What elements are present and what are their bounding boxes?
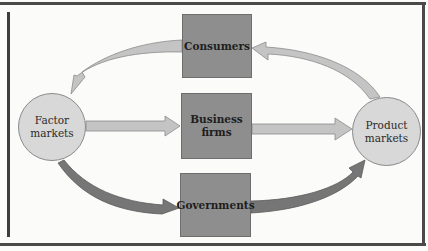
arrow-business-firms-to-product-markets [252, 118, 352, 140]
arrow-factor-markets-to-business-firms [86, 116, 180, 136]
product-markets-circle: Product markets [352, 97, 421, 166]
arrow-factor-markets-to-governments [58, 160, 179, 214]
arrow-product-markets-to-consumers [252, 42, 380, 99]
business-firms-label-line1: Business [190, 113, 243, 126]
governments-label: Governments [176, 199, 254, 212]
business-firms-label-line2: firms [201, 126, 231, 139]
factor-markets-label-line1: Factor [35, 114, 69, 127]
governments-box: Governments [180, 173, 251, 237]
product-markets-label-line2: markets [365, 132, 408, 145]
factor-markets-label-line2: markets [30, 127, 73, 140]
consumers-label: Consumers [184, 40, 250, 53]
business-firms-box: Business firms [181, 93, 252, 159]
diagram-canvas: Consumers Business firms Governments Fac… [0, 0, 428, 251]
arrow-consumers-to-factor-markets [71, 40, 182, 94]
arrow-governments-to-product-markets [251, 160, 365, 213]
factor-markets-circle: Factor markets [18, 93, 86, 161]
consumers-box: Consumers [182, 14, 252, 78]
product-markets-label-line1: Product [366, 119, 408, 132]
